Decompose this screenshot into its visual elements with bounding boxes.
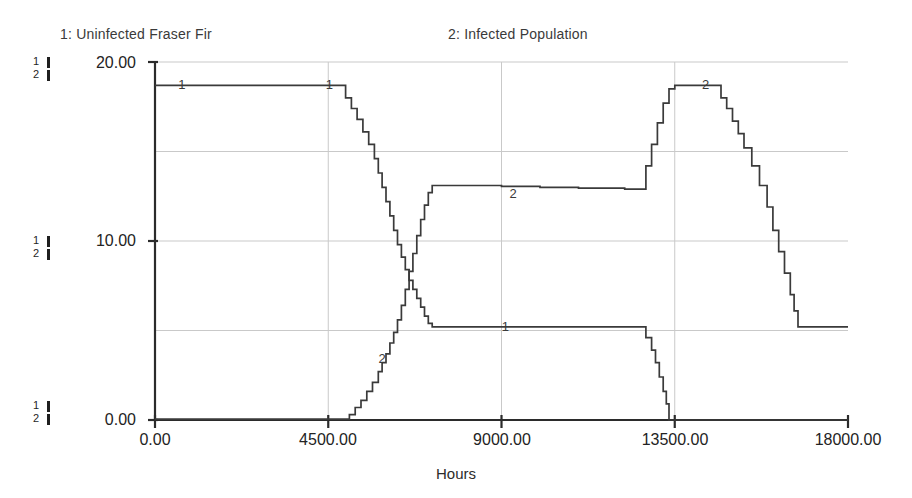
series-inline-marker: 1	[178, 77, 185, 92]
chart-container: 1: Uninfected Fraser Fir 2: Infected Pop…	[0, 0, 912, 498]
axes	[148, 62, 848, 428]
series-inline-marker: 1	[326, 77, 333, 92]
gridlines	[155, 62, 848, 420]
series-inline-marker: 2	[702, 77, 709, 92]
series-inline-marker: 1	[502, 319, 509, 334]
series-inline-marker: 2	[509, 186, 516, 201]
series-inline-marker: 2	[379, 351, 386, 366]
series-inline-labels: 112212	[178, 77, 709, 366]
plot-canvas: 112212	[0, 0, 912, 498]
